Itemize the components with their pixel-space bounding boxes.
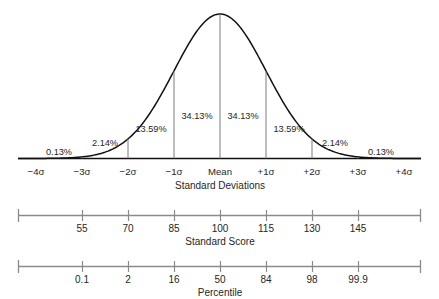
score-tick-label-130: 130 xyxy=(304,223,321,234)
percentile-tick-label-98: 98 xyxy=(306,274,318,285)
band-label-p1-p2: 13.59% xyxy=(273,124,304,134)
percentile-tick-label-99-9: 99.9 xyxy=(348,274,368,285)
sigma-divider-lines xyxy=(82,14,358,159)
percentile-axis: 0.1 2 16 50 84 98 99.9 Percentile xyxy=(18,260,421,298)
score-tick-label-115: 115 xyxy=(258,223,274,234)
sd-tick-label-plus2: +2σ xyxy=(304,166,321,177)
band-label-mean-p1: 34.13% xyxy=(227,111,258,121)
percentile-tick-label-0-1: 0.1 xyxy=(75,274,89,285)
score-tick-label-145: 145 xyxy=(350,223,367,234)
score-tick-label-85: 85 xyxy=(168,223,180,234)
score-tick-label-100: 100 xyxy=(212,223,229,234)
percentile-tick-label-50: 50 xyxy=(214,274,226,285)
normal-distribution-figure: 0.13% 2.14% 13.59% 34.13% 34.13% 13.59% … xyxy=(0,0,439,299)
percentile-tick-label-16: 16 xyxy=(168,274,180,285)
standard-score-axis-title: Standard Score xyxy=(185,236,255,247)
sd-tick-label-minus2: −2σ xyxy=(120,166,137,177)
sd-tick-label-minus1: −1σ xyxy=(166,166,183,177)
band-label-m4-m3: 0.13% xyxy=(46,147,72,157)
standard-deviations-axis-title: Standard Deviations xyxy=(175,180,265,191)
sd-tick-label-minus3: −3σ xyxy=(74,166,91,177)
band-label-m2-m1: 13.59% xyxy=(135,124,166,134)
band-label-p3-p4: 0.13% xyxy=(368,147,394,157)
score-tick-label-55: 55 xyxy=(76,223,88,234)
percentile-tick-label-2: 2 xyxy=(125,274,131,285)
percentile-axis-title: Percentile xyxy=(198,287,243,298)
sd-tick-label-plus3: +3σ xyxy=(350,166,367,177)
standard-deviations-axis: −4σ −3σ −2σ −1σ Mean +1σ +2σ +3σ +4σ Sta… xyxy=(28,166,413,191)
sd-tick-label-minus4: −4σ xyxy=(28,166,45,177)
sd-tick-label-plus4: +4σ xyxy=(396,166,413,177)
standard-score-axis: 55 70 85 100 115 130 145 Standard Score xyxy=(18,209,421,247)
band-label-m3-m2: 2.14% xyxy=(92,138,118,148)
band-label-p2-p3: 2.14% xyxy=(322,138,348,148)
chart-canvas: 0.13% 2.14% 13.59% 34.13% 34.13% 13.59% … xyxy=(0,0,439,299)
sd-tick-label-plus1: +1σ xyxy=(258,166,275,177)
band-label-m1-mean: 34.13% xyxy=(181,111,212,121)
sd-tick-label-mean: Mean xyxy=(208,166,232,177)
score-tick-label-70: 70 xyxy=(122,223,134,234)
percentile-tick-label-84: 84 xyxy=(260,274,272,285)
